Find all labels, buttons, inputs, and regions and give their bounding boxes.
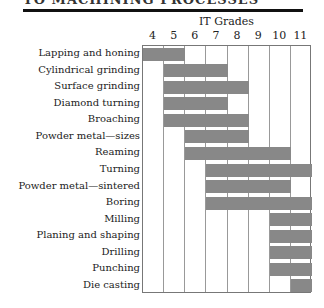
- category-label: Lapping and honing: [38, 47, 140, 59]
- category-label: Cylindrical grinding: [38, 64, 140, 76]
- range-bar: [270, 263, 312, 276]
- range-bar: [291, 279, 312, 292]
- category-label: Boring: [106, 196, 140, 208]
- x-tick-label: 11: [290, 29, 311, 42]
- x-tick-label: 9: [248, 29, 269, 42]
- range-bar: [270, 246, 312, 259]
- category-label: Reaming: [95, 146, 140, 158]
- range-bar: [206, 164, 312, 177]
- x-tick-label: 7: [205, 29, 226, 42]
- header-rule: [23, 9, 303, 12]
- range-bar: [164, 81, 249, 94]
- range-bar: [164, 97, 227, 110]
- x-tick-label: 5: [163, 29, 184, 42]
- page-header-text: TO MACHINING PROCESSES: [23, 0, 259, 7]
- category-label: Drilling: [102, 246, 140, 258]
- chart-title: IT Grades: [142, 15, 311, 28]
- x-tick-label: 6: [184, 29, 205, 42]
- range-bar: [206, 197, 312, 210]
- category-label: Surface grinding: [54, 80, 140, 92]
- category-label: Powder metal—sizes: [36, 130, 140, 142]
- range-bar: [185, 147, 291, 160]
- x-tick-label: 8: [227, 29, 248, 42]
- category-label: Punching: [92, 262, 140, 274]
- range-bar: [185, 130, 248, 143]
- range-bar: [164, 64, 227, 77]
- range-bar: [206, 180, 291, 193]
- category-label: Turning: [100, 163, 140, 175]
- category-label: Diamond turning: [54, 97, 140, 109]
- category-label: Powder metal—sintered: [18, 180, 140, 192]
- range-bar: [270, 230, 312, 243]
- category-label: Die casting: [83, 279, 140, 291]
- x-tick-label: 4: [142, 29, 163, 42]
- x-tick-label: 10: [269, 29, 290, 42]
- category-label: Planing and shaping: [36, 229, 140, 241]
- range-bar: [143, 48, 185, 61]
- chart-grid: [142, 45, 311, 293]
- category-label: Milling: [104, 213, 140, 225]
- range-bar: [270, 213, 312, 226]
- category-label: Broaching: [88, 113, 140, 125]
- range-bar: [164, 114, 249, 127]
